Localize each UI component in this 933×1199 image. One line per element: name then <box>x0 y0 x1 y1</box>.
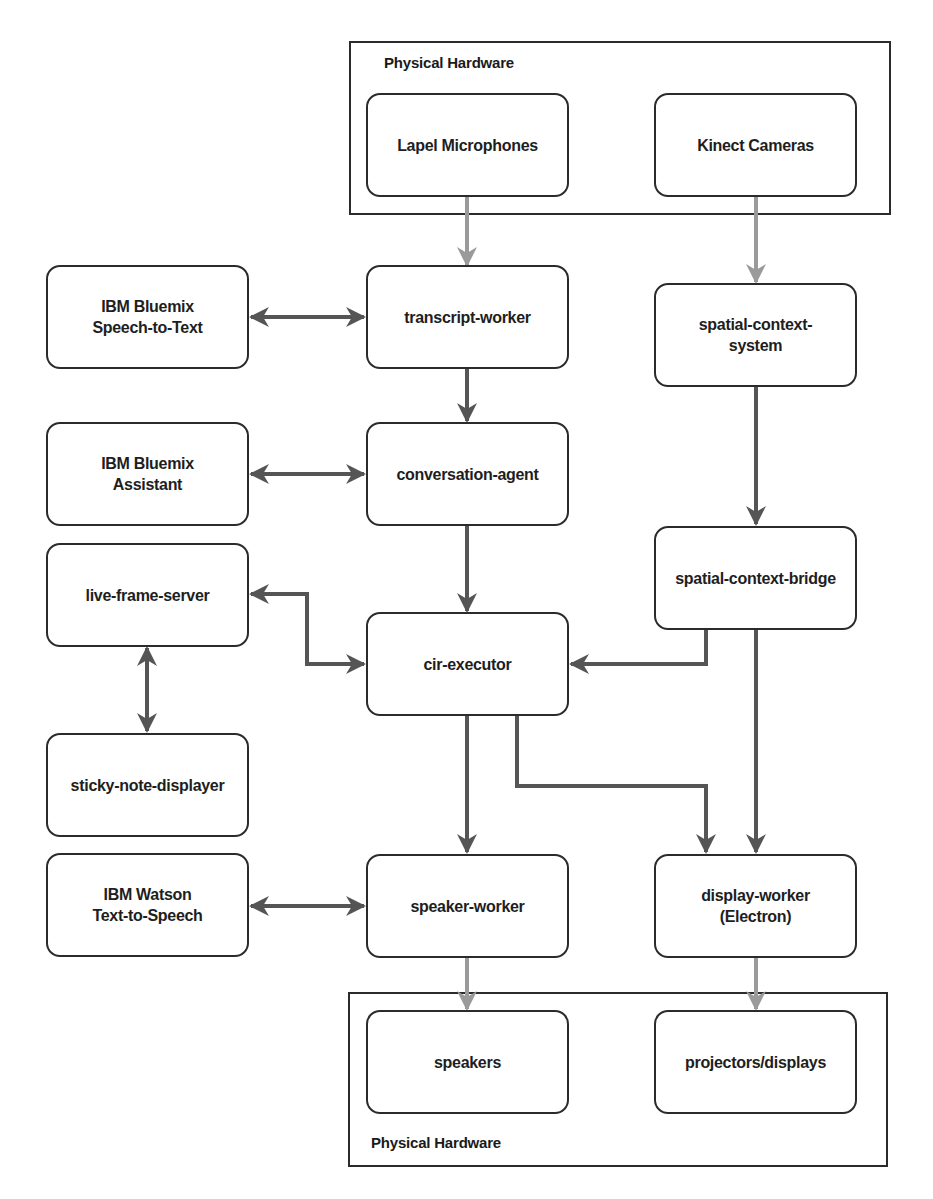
frame-label-bottom: Physical Hardware <box>371 1134 501 1151</box>
node-label: transcript-worker <box>404 307 531 328</box>
node-label: IBM Watson Text-to-Speech <box>92 884 202 926</box>
node-transcript-worker: transcript-worker <box>366 265 569 369</box>
node-label: display-worker (Electron) <box>701 885 810 927</box>
node-label: Kinect Cameras <box>697 135 814 156</box>
frame-label-top: Physical Hardware <box>384 54 514 71</box>
node-display-worker: display-worker (Electron) <box>654 854 857 958</box>
edge-cir-to-display-worker <box>517 716 706 852</box>
node-speakers: speakers <box>366 1010 569 1114</box>
node-label: IBM Bluemix Speech-to-Text <box>92 296 202 338</box>
node-label: projectors/displays <box>685 1052 826 1073</box>
architecture-diagram: Physical Hardware Physical Hardware <box>0 0 933 1199</box>
node-projectors-displays: projectors/displays <box>654 1010 857 1114</box>
node-label: conversation-agent <box>396 464 538 485</box>
node-label: sticky-note-displayer <box>71 775 225 796</box>
node-sticky-note-displayer: sticky-note-displayer <box>46 733 249 837</box>
node-speaker-worker: speaker-worker <box>366 854 569 958</box>
node-label: speakers <box>434 1052 501 1073</box>
node-kinect-cameras: Kinect Cameras <box>654 93 857 197</box>
node-ibm-bluemix-assistant: IBM Bluemix Assistant <box>46 422 249 526</box>
node-label: IBM Bluemix Assistant <box>101 453 194 495</box>
node-label: Lapel Microphones <box>397 135 538 156</box>
edge-liveframe-cir <box>251 594 364 664</box>
node-lapel-microphones: Lapel Microphones <box>366 93 569 197</box>
node-spatial-context-system: spatial-context- system <box>654 283 857 387</box>
node-ibm-watson-text-to-speech: IBM Watson Text-to-Speech <box>46 853 249 957</box>
node-label: cir-executor <box>424 654 512 675</box>
node-ibm-bluemix-speech-to-text: IBM Bluemix Speech-to-Text <box>46 265 249 369</box>
node-label: spatial-context- system <box>699 314 812 356</box>
node-label: speaker-worker <box>410 896 524 917</box>
node-live-frame-server: live-frame-server <box>46 543 249 647</box>
node-spatial-context-bridge: spatial-context-bridge <box>654 526 857 630</box>
node-label: live-frame-server <box>86 585 210 606</box>
node-conversation-agent: conversation-agent <box>366 422 569 526</box>
node-cir-executor: cir-executor <box>366 612 569 716</box>
node-label: spatial-context-bridge <box>675 568 836 589</box>
edge-bridge-to-cir <box>571 630 706 664</box>
